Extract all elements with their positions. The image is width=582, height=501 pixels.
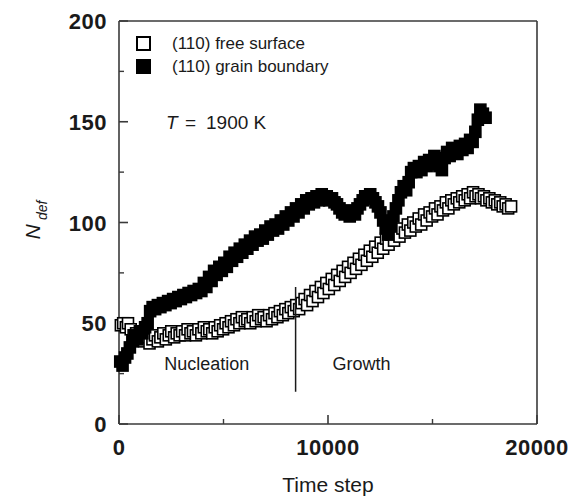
y-tick-label: 150 <box>69 110 107 135</box>
defect-count-scatter-chart: 050100150200 01000020000 Nucleation Grow… <box>0 0 582 501</box>
y-tick-label: 50 <box>82 311 107 336</box>
y-axis-title-subscript: def <box>34 198 50 220</box>
x-tick-label: 0 <box>113 435 126 460</box>
region-label-growth: Growth <box>332 354 390 374</box>
temperature-equals: = <box>185 112 196 133</box>
y-tick-label: 100 <box>69 211 107 236</box>
chart-figure: 050100150200 01000020000 Nucleation Grow… <box>0 0 582 501</box>
y-axis-title-main: N <box>21 224 44 240</box>
legend-marker-filled-square <box>137 60 150 73</box>
data-point <box>506 201 517 212</box>
temperature-symbol: T <box>166 112 179 133</box>
y-tick-label: 0 <box>94 412 107 437</box>
region-label-nucleation: Nucleation <box>164 354 249 374</box>
x-axis-title: Time step <box>282 473 373 496</box>
data-point <box>480 112 491 123</box>
x-tick-label: 20000 <box>505 435 569 460</box>
x-tick-label: 10000 <box>296 435 360 460</box>
data-point <box>142 318 153 329</box>
legend-label-free-surface: (110) free surface <box>172 34 305 53</box>
data-point <box>436 165 447 176</box>
data-point <box>470 126 481 137</box>
legend-label-grain-boundary: (110) grain boundary <box>172 57 329 76</box>
temperature-value: 1900 K <box>206 112 267 133</box>
legend-marker-open-square <box>137 37 150 50</box>
y-tick-label: 200 <box>69 9 107 34</box>
